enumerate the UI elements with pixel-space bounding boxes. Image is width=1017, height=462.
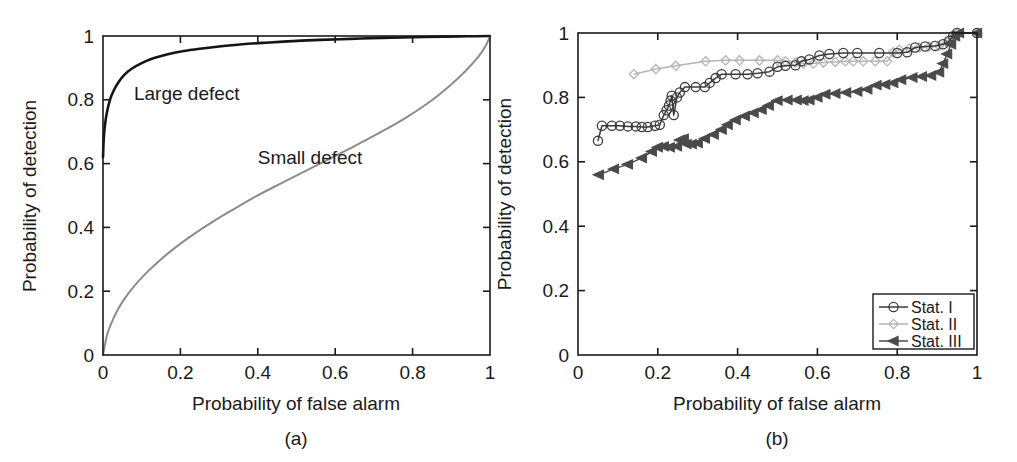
legend-label: Stat. III [911,333,962,350]
y-tick-label: 0.2 [68,281,94,302]
legend-label: Stat. I [911,299,953,316]
panel-b-y-axis-title: Probability of detection [494,98,515,290]
y-tick-label: 0.6 [68,153,94,174]
y-tick-label: 1 [83,26,94,47]
y-tick-label: 0.6 [543,151,569,172]
legend[interactable]: Stat. IStat. IIStat. III [873,294,974,350]
panel-a-caption: (a) [284,428,307,449]
x-tick-label: 0.2 [645,362,671,383]
panel-b-caption: (b) [765,428,788,449]
figure-canvas: 00.20.40.60.81 00.20.40.60.81 Large defe… [0,0,1017,462]
annotation-label: Small defect [258,147,363,168]
x-tick-label: 0.8 [399,362,425,383]
x-tick-label: 1 [972,362,983,383]
y-tick-label: 1 [558,23,569,44]
legend-label: Stat. II [911,316,957,333]
x-tick-label: 0.4 [245,362,272,383]
x-tick-label: 0 [98,362,109,383]
panel-a-y-axis-title: Probability of detection [19,100,40,292]
x-tick-label: 0.8 [884,362,910,383]
y-tick-label: 0.8 [68,89,94,110]
annotation-label: Large defect [134,83,240,104]
x-tick-label: 0.6 [322,362,348,383]
y-tick-label: 0.2 [543,280,569,301]
figure-roc-curves: 00.20.40.60.81 00.20.40.60.81 Large defe… [0,0,1017,462]
x-tick-label: 0.2 [167,362,193,383]
y-tick-label: 0.4 [68,217,95,238]
x-tick-label: 1 [485,362,496,383]
x-tick-label: 0 [573,362,584,383]
x-tick-label: 0.6 [804,362,830,383]
y-tick-label: 0.8 [543,87,569,108]
y-tick-label: 0 [83,345,94,366]
panel-b-x-axis-title: Probability of false alarm [673,393,881,414]
y-tick-label: 0 [558,345,569,366]
panel-a-x-axis-title: Probability of false alarm [192,393,400,414]
y-tick-label: 0.4 [543,216,570,237]
x-tick-label: 0.4 [724,362,751,383]
